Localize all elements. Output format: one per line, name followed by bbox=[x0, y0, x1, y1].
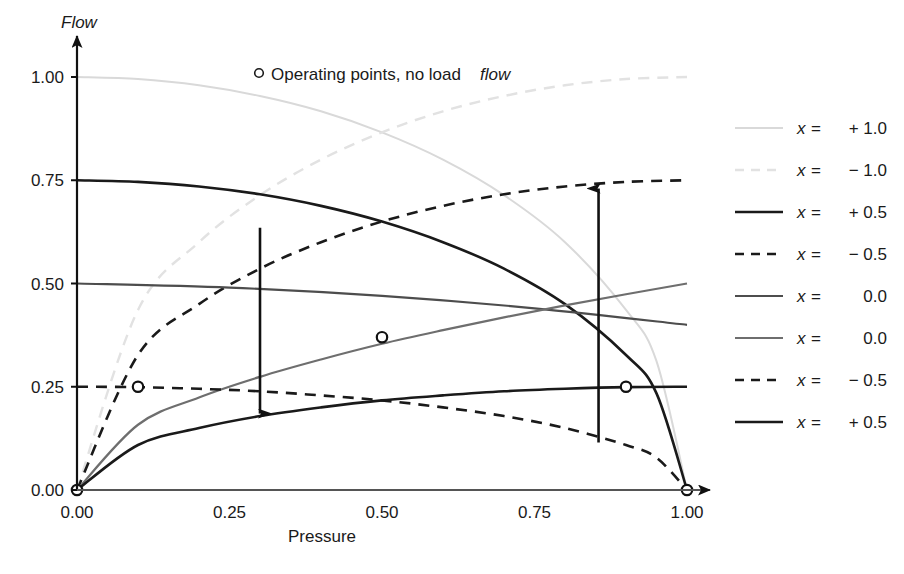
x-tick-label: 0.75 bbox=[518, 503, 551, 522]
legend-variable-3: x bbox=[796, 245, 806, 264]
legend-value-7: + 0.5 bbox=[849, 413, 887, 432]
legend-equals-6: = bbox=[811, 371, 821, 390]
y-axis-title: Flow bbox=[61, 13, 99, 32]
legend-equals-0: = bbox=[811, 119, 821, 138]
legend-variable-2: x bbox=[796, 203, 806, 222]
legend-variable-4: x bbox=[796, 287, 806, 306]
x-tick-label: 0.25 bbox=[213, 503, 246, 522]
legend-equals-1: = bbox=[811, 161, 821, 180]
legend-variable-1: x bbox=[796, 161, 806, 180]
x-axis-title: Pressure bbox=[288, 527, 356, 546]
legend-equals-7: = bbox=[811, 413, 821, 432]
legend-equals-3: = bbox=[811, 245, 821, 264]
annotation-text-italic: flow bbox=[480, 65, 512, 84]
legend: x=+ 1.0x=− 1.0x=+ 0.5x=− 0.5x=0.0x=0.0x=… bbox=[735, 119, 887, 432]
operating-points-annotation: Operating points, no load flow bbox=[255, 65, 512, 84]
y-tick-labels: 0.000.250.500.751.00 bbox=[31, 68, 77, 500]
operating-point-marker bbox=[377, 332, 387, 342]
legend-equals-5: = bbox=[811, 329, 821, 348]
y-tick-label: 0.00 bbox=[31, 481, 64, 500]
legend-variable-0: x bbox=[796, 119, 806, 138]
open-circle-icon bbox=[255, 69, 264, 78]
legend-variable-5: x bbox=[796, 329, 806, 348]
x-tick-label: 0.50 bbox=[365, 503, 398, 522]
series-line-7 bbox=[77, 387, 687, 490]
annotation-text: Operating points, no load bbox=[271, 65, 461, 84]
y-tick-label: 1.00 bbox=[31, 68, 64, 87]
legend-equals-4: = bbox=[811, 287, 821, 306]
y-tick-label: 0.75 bbox=[31, 171, 64, 190]
legend-value-1: − 1.0 bbox=[849, 161, 887, 180]
y-tick-label: 0.25 bbox=[31, 378, 64, 397]
series-line-6 bbox=[77, 387, 687, 490]
legend-variable-7: x bbox=[796, 413, 806, 432]
x-tick-labels: 0.000.250.500.751.00 bbox=[60, 503, 703, 522]
legend-equals-2: = bbox=[811, 203, 821, 222]
series-layer bbox=[77, 77, 687, 490]
operating-point-marker bbox=[133, 382, 143, 392]
flow-pressure-chart: 0.000.250.500.751.00 0.000.250.500.751.0… bbox=[0, 0, 904, 574]
legend-value-4: 0.0 bbox=[863, 287, 887, 306]
y-tick-label: 0.50 bbox=[31, 275, 64, 294]
operating-point-marker bbox=[621, 382, 631, 392]
legend-value-2: + 0.5 bbox=[849, 203, 887, 222]
legend-value-6: − 0.5 bbox=[849, 371, 887, 390]
series-line-1 bbox=[77, 77, 687, 490]
legend-value-0: + 1.0 bbox=[849, 119, 887, 138]
legend-variable-6: x bbox=[796, 371, 806, 390]
chart-root: 0.000.250.500.751.00 0.000.250.500.751.0… bbox=[0, 0, 904, 574]
legend-value-3: − 0.5 bbox=[849, 245, 887, 264]
axes bbox=[77, 36, 710, 490]
legend-value-5: 0.0 bbox=[863, 329, 887, 348]
series-line-4 bbox=[77, 284, 687, 325]
x-tick-label: 1.00 bbox=[670, 503, 703, 522]
x-tick-label: 0.00 bbox=[60, 503, 93, 522]
series-line-0 bbox=[77, 77, 687, 490]
